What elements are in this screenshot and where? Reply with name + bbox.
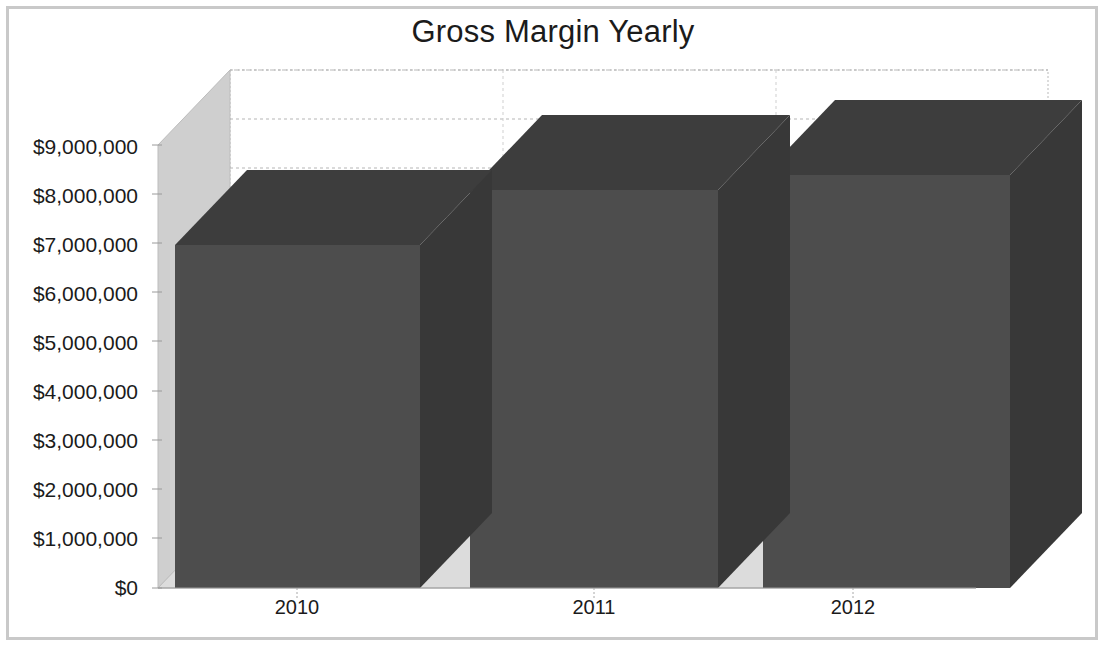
x-tick-label-2011: 2011 <box>534 596 654 619</box>
bar-2012-front-face <box>763 175 1010 588</box>
y-tick-label-7000000: $7,000,000 <box>20 233 138 257</box>
x-axis: 2010 2011 2012 <box>0 596 1106 636</box>
bar-2010-front-face <box>175 245 420 588</box>
chart-3d-scene <box>0 0 1106 651</box>
y-tick-label-5000000: $5,000,000 <box>20 331 138 355</box>
bar-2010[interactable] <box>175 170 492 588</box>
x-tick-label-2010: 2010 <box>237 596 357 619</box>
chart-screenshot: Gross Margin Yearly <box>0 0 1106 651</box>
bar-2011-side-face <box>718 115 790 588</box>
bar-2012[interactable] <box>763 100 1082 588</box>
y-tick-label-1000000: $1,000,000 <box>20 527 138 551</box>
y-tick-label-3000000: $3,000,000 <box>20 429 138 453</box>
bar-2011-front-face <box>470 190 718 588</box>
y-tick-label-2000000: $2,000,000 <box>20 478 138 502</box>
y-tick-label-6000000: $6,000,000 <box>20 282 138 306</box>
bar-2012-side-face <box>1010 100 1082 588</box>
x-tick-label-2012: 2012 <box>793 596 913 619</box>
plot-area <box>0 0 1106 651</box>
y-axis: $9,000,000 $8,000,000 $7,000,000 $6,000,… <box>20 0 138 651</box>
bar-2011[interactable] <box>470 115 790 588</box>
y-tick-label-8000000: $8,000,000 <box>20 184 138 208</box>
y-tick-label-9000000: $9,000,000 <box>20 135 138 159</box>
y-tick-label-4000000: $4,000,000 <box>20 380 138 404</box>
